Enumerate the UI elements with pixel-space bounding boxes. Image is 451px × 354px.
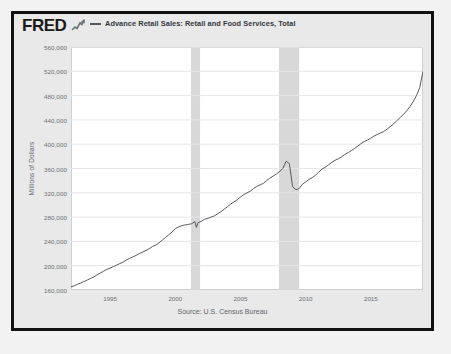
x-axis-tick-label: 2010 [299, 295, 313, 302]
x-axis-tick-label: 2015 [364, 295, 378, 302]
legend-line-swatch [90, 23, 101, 25]
x-axis-tick-label: 2005 [234, 295, 248, 302]
y-axis-tick-label: 400,000 [44, 141, 67, 148]
fred-chart-figure: FRED Advance Retail Sales: Retail and Fo… [11, 11, 434, 331]
legend-label: Advance Retail Sales: Retail and Food Se… [105, 19, 296, 28]
y-axis-title: Millions of Dollars [28, 47, 40, 290]
data-series [71, 71, 423, 287]
y-axis-tick-label: 560,000 [44, 44, 67, 51]
y-axis-tick-label: 160,000 [44, 287, 67, 294]
chart-legend: Advance Retail Sales: Retail and Food Se… [90, 19, 296, 28]
x-axis-tick-label: 2000 [168, 295, 182, 302]
y-axis-tick-label: 320,000 [44, 189, 67, 196]
y-axis-tick-label: 520,000 [44, 68, 67, 75]
series-line [71, 71, 423, 287]
gridlines [71, 47, 423, 266]
chart-header: FRED Advance Retail Sales: Retail and Fo… [14, 14, 431, 40]
y-axis-tick-label: 280,000 [44, 214, 67, 221]
y-axis-tick-label: 440,000 [44, 116, 67, 123]
plot-region: 160,000200,000240,000280,000320,000360,0… [71, 47, 423, 290]
y-axis-tick-label: 360,000 [44, 165, 67, 172]
source-note: Source: U.S. Census Bureau [14, 308, 431, 315]
y-axis-tick-label: 480,000 [44, 92, 67, 99]
y-axis-tick-label: 240,000 [44, 238, 67, 245]
line-chart-icon [71, 19, 85, 32]
y-axis-tick-label: 200,000 [44, 262, 67, 269]
x-axis-tick-label: 1995 [103, 295, 117, 302]
chart-canvas [71, 47, 423, 290]
fred-logo: FRED [22, 17, 66, 35]
